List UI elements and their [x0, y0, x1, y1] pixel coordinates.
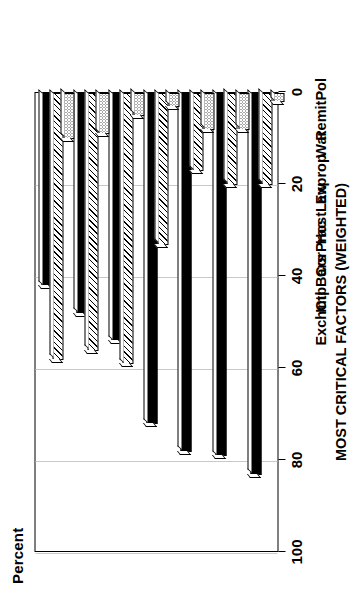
- x-axis-title: MOST CRITICAL FACTORS (WEIGHTED): [332, 92, 348, 552]
- bar-end-face: [49, 359, 63, 363]
- bar-impbars-negligible: [98, 93, 109, 134]
- bar-top-face: [154, 89, 158, 243]
- bar-exprop-negligible: [203, 93, 214, 130]
- bar-war-negligible: [238, 93, 249, 130]
- bar-top-face: [200, 89, 204, 128]
- bar-impbars-moderate: [87, 93, 98, 351]
- axis-tick: [278, 91, 285, 92]
- bar-end-face: [60, 138, 74, 142]
- bar-group: [140, 93, 175, 551]
- bar-end-face: [246, 474, 260, 478]
- y-axis-label: Percent: [8, 528, 25, 584]
- axis-tick: [278, 551, 285, 552]
- value-axis: 020406080100: [278, 92, 312, 552]
- bar-corprac-negligible: [133, 93, 144, 116]
- bar-hostlaw-negligible: [168, 93, 179, 107]
- bar-hostlaw-moderate: [157, 93, 168, 245]
- chart-canvas: Percent 020406080100 RemitPolWarExpropHo…: [0, 0, 351, 598]
- bar-top-face: [223, 89, 227, 183]
- rotated-figure-wrapper: Percent 020406080100 RemitPolWarExpropHo…: [0, 0, 351, 598]
- bar-end-face: [223, 184, 237, 188]
- axis-tick: [278, 459, 285, 460]
- axis-tick: [278, 183, 285, 184]
- bar-top-face: [235, 89, 239, 128]
- bar-group: [174, 93, 209, 551]
- plot-area: [34, 92, 278, 552]
- bar-top-face: [119, 89, 123, 362]
- bar-top-face: [212, 89, 216, 454]
- bar-group: [105, 93, 140, 551]
- axis-tick-label: 20: [287, 176, 304, 193]
- bar-corprac-moderate: [122, 93, 133, 364]
- axis-tick-label: 40: [287, 268, 304, 285]
- bar-top-face: [177, 89, 181, 450]
- bar-end-face: [142, 423, 156, 427]
- bar-group: [209, 93, 244, 551]
- bar-top-face: [84, 89, 88, 348]
- bar-end-face: [118, 363, 132, 367]
- category-axis-labels: RemitPolWarExpropHostLawCorPracImpBarsEx…: [312, 92, 332, 552]
- bar-end-face: [83, 350, 97, 354]
- bar-top-face: [143, 89, 147, 422]
- bar-end-face: [212, 455, 226, 459]
- bar-group: [244, 93, 279, 551]
- gridline: [35, 553, 277, 554]
- axis-tick-label: 100: [287, 539, 304, 564]
- bar-top-face: [189, 89, 193, 169]
- axis-tick-label: 0: [287, 88, 304, 96]
- bar-top-face: [258, 89, 262, 183]
- axis-tick-label: 60: [287, 360, 304, 377]
- bar-end-face: [177, 451, 191, 455]
- axis-tick: [278, 367, 285, 368]
- bar-top-face: [95, 89, 99, 132]
- bar-top-face: [247, 89, 251, 473]
- bar-exchctl-negligible: [63, 93, 74, 139]
- bar-top-face: [60, 89, 64, 137]
- bar-remitpol-moderate: [261, 93, 272, 185]
- bar-group: [70, 93, 105, 551]
- bar-top-face: [38, 89, 42, 284]
- bar-end-face: [258, 184, 272, 188]
- axis-tick-label: 80: [287, 452, 304, 469]
- category-label-exchctl: ExchCtl: [312, 292, 328, 346]
- bar-top-face: [130, 89, 134, 114]
- bar-chart-figure: Percent 020406080100 RemitPolWarExpropHo…: [0, 0, 351, 598]
- bar-top-face: [49, 89, 53, 358]
- axis-tick: [278, 275, 285, 276]
- bar-group: [35, 93, 70, 551]
